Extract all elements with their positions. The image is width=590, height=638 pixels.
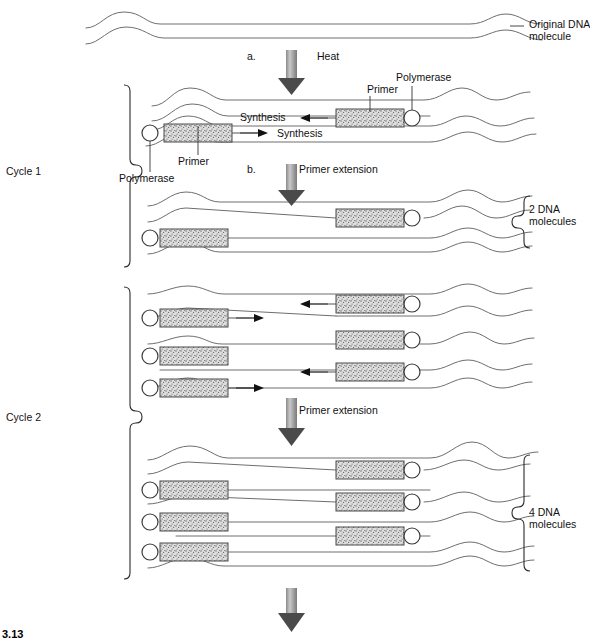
primer-c2-2	[160, 309, 236, 327]
original-dna-label-line1: Original DNA	[529, 18, 590, 31]
synthesis-label-lower: Synthesis	[277, 127, 323, 140]
strand-c2-1	[148, 284, 532, 294]
heat-arrow-icon	[278, 50, 305, 95]
primer-p1-b	[160, 229, 228, 247]
primer-p2-b	[160, 481, 228, 499]
polymerase-c2-6	[142, 380, 158, 396]
product-4-label-line2: molecules	[529, 518, 576, 531]
polymerase-p2-a	[404, 462, 420, 478]
primer-label-upper: Primer	[367, 83, 398, 96]
polymerase-p2-e	[404, 528, 420, 544]
primer-p2-d	[160, 513, 228, 531]
primer-p2-c	[336, 493, 404, 511]
cycle-1-label: Cycle 1	[6, 165, 41, 178]
cycle-2-label: Cycle 2	[6, 411, 41, 424]
primer-c2-5	[328, 363, 404, 381]
primer-label-lower: Primer	[178, 155, 209, 168]
primer-c2-6	[160, 379, 236, 397]
strand-p2-b-bot-right	[424, 492, 530, 502]
polymerase-p1-a	[404, 210, 420, 226]
primer-p2-a	[336, 461, 404, 479]
step-a-label: a.	[247, 50, 256, 63]
product-2-brace-icon	[512, 196, 530, 248]
polymerase-c2-4	[142, 348, 158, 364]
primer-c1-lower	[164, 124, 240, 142]
figure-caption-number: 3.13	[2, 628, 23, 638]
polymerase-p1-b	[142, 230, 158, 246]
heat-label: Heat	[317, 50, 339, 63]
primer-c2-4	[160, 347, 228, 365]
primer-extension-label-cycle2: Primer extension	[299, 404, 378, 417]
original-dna-molecule	[86, 12, 542, 44]
primer-extension-label-cycle1: Primer extension	[299, 163, 378, 176]
continue-arrow-icon	[278, 588, 305, 632]
polymerase-label-upper: Polymerase	[396, 71, 451, 84]
strand-p2-a-bot-right	[424, 460, 530, 470]
polymerase-c2-1	[404, 296, 420, 312]
strand-p1-a-top	[148, 190, 532, 206]
strand-c1-top	[152, 88, 530, 106]
product-2-label-line2: molecules	[529, 215, 576, 228]
polymerase-c1-upper	[404, 110, 420, 126]
primer-polymerase-group	[142, 109, 420, 561]
primer-p1-a	[336, 209, 404, 227]
polymerase-p2-b	[142, 482, 158, 498]
left-arrow-icon-upper	[300, 114, 328, 122]
synthesis-label-upper: Synthesis	[240, 111, 286, 124]
step-b-label: b.	[247, 163, 256, 176]
polymerase-p2-c	[404, 494, 420, 510]
polymerase-c2-3	[404, 332, 420, 348]
primer-p2-f	[160, 543, 228, 561]
strand-p1-a-bottom-right	[424, 206, 530, 218]
strand-p1-a-bottom	[148, 208, 336, 222]
primer-c1-upper	[328, 109, 404, 127]
original-dna-label-line2: molecule	[529, 30, 571, 43]
polymerase-label-lower: Polymerase	[119, 172, 174, 185]
strand-p2-a-bot-left	[148, 462, 336, 474]
product-2-label-line1: 2 DNA	[529, 203, 560, 216]
strand-p2-a-top	[148, 442, 538, 460]
left-arrow-icon-c2-1	[300, 300, 328, 308]
label-leader-lines	[150, 26, 524, 172]
product-4-brace-icon	[512, 455, 530, 571]
polymerase-c2-2	[142, 310, 158, 326]
left-arrow-icon-c2-5	[300, 368, 328, 376]
polymerase-p2-f	[142, 544, 158, 560]
polymerase-c1-lower	[142, 125, 158, 141]
polymerase-p2-d	[142, 514, 158, 530]
primer-c2-1	[328, 295, 404, 313]
cycle-2-brace-icon	[124, 287, 142, 579]
synthesis-direction-arrows	[236, 114, 328, 392]
right-arrow-icon-c2-2	[236, 314, 264, 322]
product-4-label-line1: 4 DNA	[529, 506, 560, 519]
right-arrow-icon-lower	[240, 129, 268, 137]
polymerase-c2-5	[404, 364, 420, 380]
primer-p2-e	[336, 527, 404, 545]
right-arrow-icon-c2-6	[236, 384, 264, 392]
primer-c2-3	[336, 331, 404, 349]
